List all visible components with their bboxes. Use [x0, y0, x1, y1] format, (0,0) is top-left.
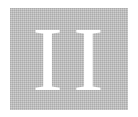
- roman-numeral-two: II: [10, 8, 128, 110]
- numeral-tile: II: [10, 8, 128, 110]
